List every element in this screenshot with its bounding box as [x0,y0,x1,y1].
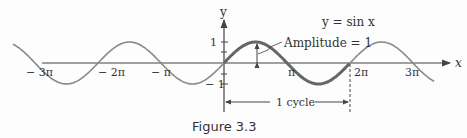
y-axis-label: y [219,5,227,19]
amplitude-label: Amplitude = 1 [283,36,372,50]
x-tick-negpi: − π [151,66,171,79]
cycle-label: 1 cycle [276,96,315,109]
x-tick-3pi: 3π [405,66,419,79]
y-tick-neg1: − 1 [205,78,225,91]
sine-graph: y x y = sin x Amplitude = 1 1 cycle 1 − … [0,0,467,138]
y-tick-1: 1 [210,36,217,49]
x-axis-label: x [455,56,462,70]
x-tick-2pi: 2π [354,66,368,79]
x-tick-neg3pi: − 3π [26,66,53,79]
x-tick-pi: π [288,66,295,79]
figure-caption: Figure 3.3 [192,119,257,134]
x-tick-neg2pi: − 2π [98,66,125,79]
equation: y = sin x [321,15,375,29]
